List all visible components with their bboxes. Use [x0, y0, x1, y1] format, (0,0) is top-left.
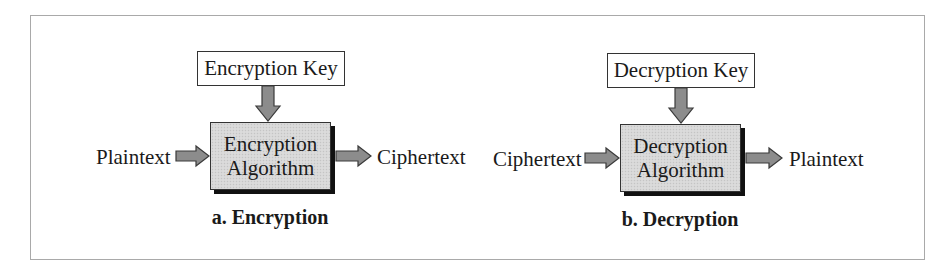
right-arrow-icon — [746, 147, 783, 169]
decryption-input-label: Ciphertext — [493, 147, 582, 171]
decryption-key-box: Decryption Key — [607, 53, 755, 88]
right-arrow-icon — [585, 147, 620, 169]
decryption-algorithm-line1: Decryption — [633, 134, 727, 158]
decryption-algorithm-line2: Algorithm — [637, 158, 725, 182]
decryption-caption: b. Decryption — [614, 207, 746, 231]
down-arrow-icon — [668, 88, 694, 124]
decryption-algorithm-box: Decryption Algorithm — [620, 124, 741, 192]
decryption-output-label: Plaintext — [789, 147, 864, 171]
decryption-panel: Decryption Key Decryption Algorithm Ciph… — [0, 0, 951, 275]
decryption-key-label: Decryption Key — [614, 58, 749, 83]
